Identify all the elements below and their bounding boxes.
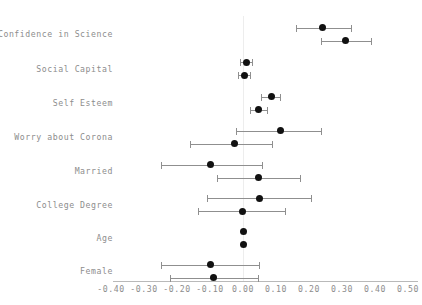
- x-tick-label-020: 0.20: [298, 284, 320, 294]
- ci-cap-lower: [217, 175, 218, 182]
- point-estimate-dot: [240, 228, 247, 235]
- x-tick-label-010: -0.10: [196, 284, 223, 294]
- ci-cap-upper: [272, 141, 273, 148]
- estimate-college-degree-series-1: [207, 198, 313, 199]
- ci-cap-upper: [267, 107, 268, 114]
- ci-cap-lower: [161, 162, 162, 169]
- x-tick-label-040: 0.40: [364, 284, 386, 294]
- ci-cap-lower: [170, 275, 171, 282]
- estimate-self-esteem-series-2: [250, 110, 268, 111]
- estimate-self-esteem-series-1: [261, 97, 281, 98]
- ci-cap-lower: [240, 59, 241, 66]
- point-estimate-dot: [240, 241, 247, 248]
- point-estimate-dot: [256, 195, 263, 202]
- x-axis-line: [113, 281, 418, 282]
- point-estimate-dot: [243, 59, 250, 66]
- ci-cap-lower: [238, 72, 239, 79]
- estimate-worry-about-corona-series-1: [236, 131, 322, 132]
- point-estimate-dot: [319, 24, 326, 31]
- x-tick-label-000: 0.00: [232, 284, 254, 294]
- ci-cap-lower: [261, 94, 262, 101]
- estimate-married-series-1: [161, 165, 263, 166]
- estimate-social-capital-series-1: [240, 62, 253, 63]
- estimate-married-series-2: [217, 178, 301, 179]
- point-estimate-dot: [210, 274, 217, 281]
- x-tick-label-030: 0.30: [331, 284, 353, 294]
- estimate-confidence-in-science-series-2: [321, 41, 372, 42]
- point-estimate-dot: [255, 106, 262, 113]
- ci-cap-upper: [285, 208, 286, 215]
- ci-cap-upper: [259, 262, 260, 269]
- estimate-female-series-1: [161, 265, 260, 266]
- x-tick-label-020: -0.20: [163, 284, 190, 294]
- point-estimate-dot: [207, 261, 214, 268]
- y-tick-label-female: Female: [80, 266, 113, 276]
- y-tick-label-age: Age: [97, 233, 113, 243]
- point-estimate-dot: [277, 127, 284, 134]
- ci-cap-upper: [250, 72, 251, 79]
- point-estimate-dot: [239, 208, 246, 215]
- ci-cap-upper: [300, 175, 301, 182]
- x-tick-label-030: -0.30: [130, 284, 157, 294]
- ci-cap-lower: [296, 25, 297, 32]
- point-estimate-dot: [342, 37, 349, 44]
- point-estimate-dot: [231, 140, 238, 147]
- ci-cap-lower: [161, 262, 162, 269]
- ci-cap-upper: [252, 59, 253, 66]
- y-tick-label-college-degree: College Degree: [36, 200, 113, 210]
- estimate-social-capital-series-2: [238, 75, 251, 76]
- ci-cap-lower: [198, 208, 199, 215]
- ci-cap-upper: [258, 275, 259, 282]
- estimate-female-series-2: [170, 278, 259, 279]
- y-tick-label-worry-about-corona: Worry about Corona: [14, 132, 113, 142]
- y-tick-label-self-esteem: Self Esteem: [53, 98, 113, 108]
- estimate-college-degree-series-2: [198, 211, 285, 212]
- point-estimate-dot: [268, 93, 275, 100]
- ci-cap-lower: [207, 195, 208, 202]
- coefficient-plot: Confidence in ScienceSocial CapitalSelf …: [0, 0, 422, 305]
- point-estimate-dot: [255, 174, 262, 181]
- ci-cap-upper: [311, 195, 312, 202]
- y-tick-label-married: Married: [75, 166, 113, 176]
- ci-cap-lower: [250, 107, 251, 114]
- ci-cap-upper: [280, 94, 281, 101]
- estimate-confidence-in-science-series-1: [296, 28, 352, 29]
- ci-cap-lower: [190, 141, 191, 148]
- x-tick-label-050: 0.50: [397, 284, 419, 294]
- ci-cap-upper: [351, 25, 352, 32]
- point-estimate-dot: [207, 161, 214, 168]
- estimate-worry-about-corona-series-2: [190, 144, 273, 145]
- y-tick-label-social-capital: Social Capital: [36, 64, 113, 74]
- ci-cap-upper: [321, 128, 322, 135]
- x-tick-label-010: 0.10: [265, 284, 287, 294]
- x-tick-label-040: -0.40: [97, 284, 124, 294]
- ci-cap-lower: [236, 128, 237, 135]
- ci-cap-upper: [262, 162, 263, 169]
- point-estimate-dot: [241, 72, 248, 79]
- ci-cap-lower: [321, 38, 322, 45]
- y-tick-label-confidence-in-science: Confidence in Science: [0, 29, 113, 39]
- plot-area: Confidence in ScienceSocial CapitalSelf …: [0, 0, 422, 305]
- ci-cap-upper: [371, 38, 372, 45]
